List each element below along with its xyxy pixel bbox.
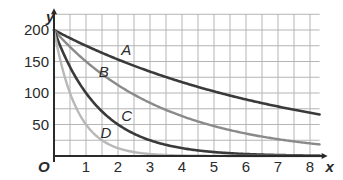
x-tick-label: 1	[82, 158, 90, 175]
x-tick-label: 3	[146, 158, 154, 175]
curve-label-d: D	[100, 124, 111, 141]
origin-label: O	[38, 158, 50, 175]
y-tick-label: 100	[24, 84, 49, 101]
curve-label-a: A	[120, 41, 131, 58]
curve-label-b: B	[99, 63, 109, 80]
x-tick-label: 8	[306, 158, 314, 175]
x-tick-label: 4	[178, 158, 186, 175]
curve-b	[54, 30, 320, 144]
x-axis-label: x	[325, 158, 335, 175]
y-axis-label: y	[45, 8, 55, 25]
x-tick-label: 6	[242, 158, 250, 175]
x-tick-label: 5	[210, 158, 218, 175]
exponential-decay-chart: 1234567850100150200xyOABCD	[0, 0, 343, 180]
curve-label-c: C	[121, 107, 132, 124]
y-tick-label: 50	[32, 116, 49, 133]
y-tick-label: 150	[24, 53, 49, 70]
x-tick-label: 2	[114, 158, 122, 175]
x-tick-label: 7	[274, 158, 282, 175]
